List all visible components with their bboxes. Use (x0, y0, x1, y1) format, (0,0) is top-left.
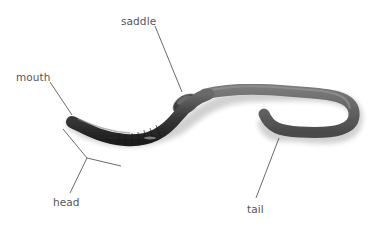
earthworm-diagram: saddle mouth head tail (0, 0, 385, 233)
worm-tail-segment (205, 89, 354, 132)
label-mouth: mouth (16, 71, 51, 83)
label-head: head (53, 196, 80, 208)
leader-lines (50, 26, 279, 198)
leader-line-saddle (155, 26, 182, 92)
label-tail: tail (247, 203, 264, 215)
label-saddle: saddle (121, 15, 156, 27)
leader-line-head (70, 158, 87, 193)
leader-line-tail (256, 138, 279, 198)
leader-line-mouth (50, 82, 72, 115)
